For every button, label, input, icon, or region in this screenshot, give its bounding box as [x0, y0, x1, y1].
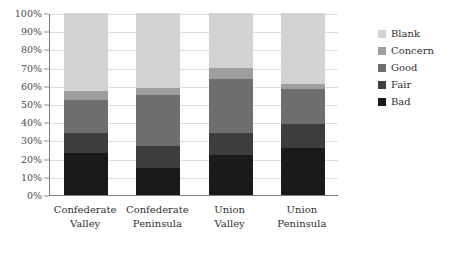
legend-item-blank[interactable]: Blank [378, 26, 451, 42]
x-axis-label-line: Union [266, 203, 338, 217]
legend-item-concern[interactable]: Concern [378, 43, 451, 59]
y-axis-tick-label: 60% [0, 82, 42, 92]
x-axis-label-confederate-peninsula: ConfederatePeninsula [121, 203, 193, 230]
bar-union-peninsula[interactable] [281, 13, 325, 195]
legend-swatch-icon [378, 30, 386, 38]
bar-segment-fair[interactable] [136, 146, 180, 168]
legend-item-good[interactable]: Good [378, 60, 451, 76]
x-axis-label-line: Valley [49, 217, 121, 231]
y-axis-tick-labels: 0%10%20%30%40%50%60%70%80%90%100% [0, 14, 42, 196]
x-axis-label-line: Confederate [121, 203, 193, 217]
x-axis-label-line: Confederate [49, 203, 121, 217]
bar-segment-good[interactable] [64, 100, 108, 133]
legend-swatch-icon [378, 47, 386, 55]
bar-segment-blank[interactable] [136, 13, 180, 88]
x-axis-label-union-valley: UnionValley [194, 203, 266, 230]
bar-segment-bad[interactable] [136, 168, 180, 195]
x-axis-label-line: Peninsula [121, 217, 193, 231]
bar-segment-fair[interactable] [281, 124, 325, 148]
plot-area [49, 14, 338, 196]
bar-segment-bad[interactable] [64, 153, 108, 195]
legend-swatch-icon [378, 98, 386, 106]
x-axis-label-confederate-valley: ConfederateValley [49, 203, 121, 230]
bar-segment-fair[interactable] [64, 133, 108, 153]
x-axis-category-labels: ConfederateValleyConfederatePeninsulaUni… [49, 199, 338, 243]
y-axis-tick-label: 70% [0, 64, 42, 74]
bar-segment-bad[interactable] [281, 148, 325, 195]
bar-segment-concern[interactable] [64, 91, 108, 100]
legend-swatch-icon [378, 64, 386, 72]
legend-item-fair[interactable]: Fair [378, 77, 451, 93]
legend-label: Bad [391, 97, 411, 107]
bar-segment-concern[interactable] [136, 88, 180, 95]
y-axis-tick-label: 80% [0, 46, 42, 56]
y-axis-tick-label: 50% [0, 100, 42, 110]
bar-segment-concern[interactable] [209, 68, 253, 79]
x-axis-label-line: Valley [194, 217, 266, 231]
chart-legend: BlankConcernGoodFairBad [378, 26, 451, 111]
bar-segment-good[interactable] [209, 79, 253, 134]
x-axis-label-union-peninsula: UnionPeninsula [266, 203, 338, 230]
legend-label: Concern [391, 46, 434, 56]
legend-item-bad[interactable]: Bad [378, 94, 451, 110]
x-axis-label-line: Union [194, 203, 266, 217]
bar-confederate-peninsula[interactable] [136, 13, 180, 195]
bar-segment-blank[interactable] [64, 13, 108, 91]
y-axis-tick-label: 10% [0, 173, 42, 183]
bar-segment-blank[interactable] [209, 13, 253, 68]
bar-confederate-valley[interactable] [64, 13, 108, 195]
y-axis-tick-label: 100% [0, 9, 42, 19]
bar-segment-fair[interactable] [209, 133, 253, 155]
bar-segment-good[interactable] [136, 95, 180, 146]
y-axis-tick-label: 90% [0, 27, 42, 37]
y-axis-tick-label: 0% [0, 191, 42, 201]
stacked-bar-chart: 0%10%20%30%40%50%60%70%80%90%100% Confed… [0, 0, 451, 259]
bar-segment-good[interactable] [281, 89, 325, 124]
x-axis-label-line: Peninsula [266, 217, 338, 231]
y-axis-tick-label: 20% [0, 155, 42, 165]
y-axis-tick-label: 30% [0, 137, 42, 147]
bar-segment-blank[interactable] [281, 13, 325, 84]
bar-union-valley[interactable] [209, 13, 253, 195]
bar-segment-bad[interactable] [209, 155, 253, 195]
legend-label: Fair [391, 80, 411, 90]
y-axis-tick-label: 40% [0, 118, 42, 128]
legend-swatch-icon [378, 81, 386, 89]
legend-label: Good [391, 63, 417, 73]
legend-label: Blank [391, 29, 420, 39]
